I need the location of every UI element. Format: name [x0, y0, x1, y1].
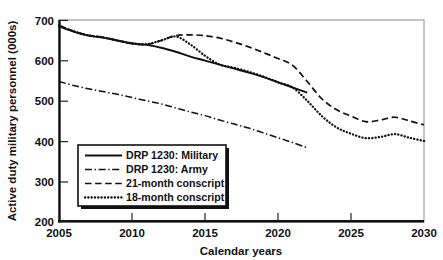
y-axis-tick-labels: 700 600 500 400 300 200 — [35, 15, 54, 228]
x-tick-label: 2030 — [411, 227, 437, 239]
x-tick-label: 2010 — [119, 227, 145, 239]
x-tick-label: 2020 — [265, 227, 291, 239]
x-axis-tick-labels: 2005 2010 2015 2020 2025 2030 — [46, 227, 437, 239]
line-chart: 700 600 500 400 300 200 2005 2010 2015 2… — [0, 0, 443, 260]
legend-label: DRP 1230: Army — [126, 163, 208, 175]
x-tick-label: 2015 — [192, 227, 218, 239]
x-tick-label: 2025 — [338, 227, 364, 239]
y-axis-title: Active duty military personnel (000s) — [6, 20, 18, 221]
y-tick-label: 700 — [35, 15, 54, 27]
series-line-drp-1230-military — [59, 26, 307, 92]
y-tick-label: 400 — [35, 136, 54, 148]
series-group — [59, 25, 424, 148]
y-tick-label: 600 — [35, 55, 54, 67]
x-axis-title: Calendar years — [200, 245, 282, 257]
chart-figure: 700 600 500 400 300 200 2005 2010 2015 2… — [0, 0, 443, 260]
x-tick-label: 2005 — [46, 227, 72, 239]
series-line-18-month-conscript — [59, 26, 424, 141]
legend-label: 18-month conscript — [126, 191, 225, 203]
x-axis-ticks — [132, 213, 351, 221]
legend: DRP 1230: Military DRP 1230: Army 21-mon… — [78, 145, 229, 209]
legend-label: DRP 1230: Military — [126, 149, 218, 161]
y-tick-label: 500 — [35, 95, 54, 107]
y-tick-label: 300 — [35, 176, 54, 188]
series-line-drp-1230-army — [59, 81, 307, 147]
legend-label: 21-month conscript — [126, 177, 225, 189]
